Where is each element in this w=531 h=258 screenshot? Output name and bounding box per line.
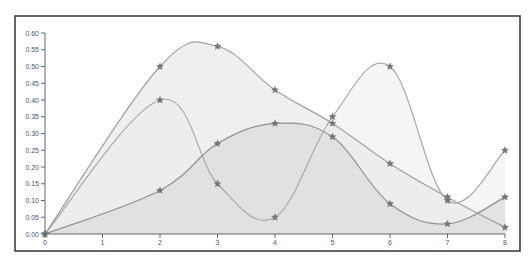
x-tick-label: 0 [43,239,47,246]
y-tick-label: 0.10 [25,197,39,204]
y-tick-label: 0.05 [25,214,39,221]
x-tick-label: 3 [216,239,220,246]
y-tick-label: 0.40 [25,97,39,104]
y-tick-label: 0.60 [25,30,39,37]
y-tick-label: 0.45 [25,80,39,87]
y-tick-label: 0.50 [25,63,39,70]
y-tick-label: 0.15 [25,180,39,187]
y-tick-label: 0.55 [25,46,39,53]
y-tick-label: 0.00 [25,231,39,238]
x-tick-label: 8 [503,239,507,246]
y-tick-label: 0.20 [25,164,39,171]
x-tick-label: 6 [388,239,392,246]
y-tick-label: 0.35 [25,113,39,120]
area-chart: 0.000.050.100.150.200.250.300.350.400.45… [0,0,531,258]
x-tick-label: 7 [446,239,450,246]
y-tick-label: 0.25 [25,147,39,154]
x-tick-label: 1 [101,239,105,246]
x-tick-label: 5 [331,239,335,246]
x-tick-label: 2 [158,239,162,246]
y-tick-label: 0.30 [25,130,39,137]
x-tick-label: 4 [273,239,277,246]
chart-container: 0.000.050.100.150.200.250.300.350.400.45… [0,0,531,258]
